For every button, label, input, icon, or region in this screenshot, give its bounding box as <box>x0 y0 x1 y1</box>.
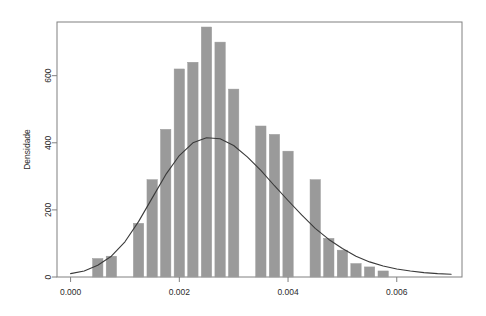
histogram-bar <box>93 259 103 277</box>
histogram-bar <box>201 27 211 277</box>
histogram-bar <box>147 180 157 277</box>
y-tick-label: 200 <box>43 203 53 217</box>
x-tick-label: 0.000 <box>60 287 82 297</box>
histogram-bar <box>133 223 143 277</box>
histogram-bar <box>337 250 347 277</box>
y-tick-label: 400 <box>43 135 53 149</box>
histogram-bar <box>229 89 239 277</box>
histogram-bar <box>161 129 171 277</box>
histogram-bar <box>106 256 116 277</box>
histogram-bar <box>324 238 334 277</box>
x-tick-label: 0.006 <box>386 287 408 297</box>
histogram-bar <box>351 264 361 277</box>
histogram-bar <box>269 134 279 277</box>
histogram-bar <box>215 42 225 277</box>
histogram-bar <box>256 126 266 277</box>
x-tick-label: 0.002 <box>169 287 191 297</box>
y-axis-title: Densidade <box>22 129 32 170</box>
histogram-bar <box>283 151 293 277</box>
y-tick-label: 0 <box>43 274 53 279</box>
histogram-chart: 0.0000.0020.0040.0060200400600Densidade <box>0 0 486 316</box>
y-tick-label: 600 <box>43 68 53 82</box>
histogram-bar <box>364 267 374 277</box>
histogram-figure: 0.0000.0020.0040.0060200400600Densidade <box>0 0 486 316</box>
histogram-bar <box>174 69 184 277</box>
histogram-bar <box>378 271 388 277</box>
histogram-bar <box>188 62 198 277</box>
x-tick-label: 0.004 <box>277 287 299 297</box>
